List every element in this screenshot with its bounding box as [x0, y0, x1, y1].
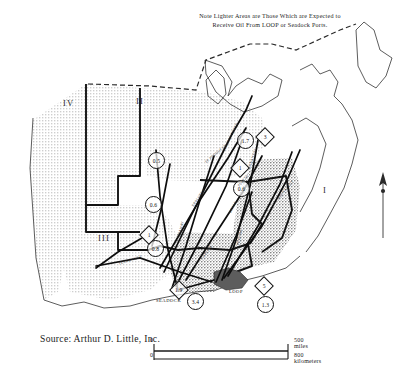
map-note-line-1: Note Lighter Areas are Those Which are E…	[170, 12, 370, 21]
map-note: Note Lighter Areas are Those Which are E…	[170, 12, 370, 30]
flow-marker-circle-11: 1.3	[257, 296, 274, 313]
flow-marker-circle-8: 3.4	[187, 293, 204, 310]
flow-marker-value: 1	[239, 165, 242, 171]
region-label-iii: III	[98, 233, 110, 243]
map-figure: Note Lighter Areas are Those Which are E…	[0, 0, 418, 380]
scale-miles-label: 500 miles	[294, 337, 308, 349]
scale-km-label: 800 kilometers	[294, 352, 321, 364]
flow-marker-value: 1.3	[262, 302, 269, 308]
northeast-outline	[356, 22, 392, 88]
canada-border-dashed	[88, 24, 356, 90]
flow-marker-value: 0.6	[150, 202, 157, 208]
flow-marker-value: 1.7	[242, 138, 249, 144]
flow-marker-value: 5	[263, 283, 266, 289]
scale-zero-top: 0	[150, 337, 153, 343]
scale-zero-bottom: 0	[150, 352, 153, 358]
port-label-loop: LOOP	[229, 289, 243, 294]
map-note-line-2: Receive Oil From LOOP or Seadock Ports.	[170, 21, 370, 30]
flow-marker-value: 0.8	[152, 246, 159, 252]
flow-marker-value: 3	[264, 134, 267, 140]
region-label-ii: II	[136, 96, 144, 106]
east-coast-outline	[300, 64, 358, 252]
map-geography-layer	[0, 0, 418, 380]
flow-marker-value: 0.5	[153, 158, 160, 164]
flow-marker-value: 1.9	[175, 287, 182, 293]
flow-marker-circle-4: 1.7	[237, 132, 254, 149]
region-label-i: I	[323, 185, 327, 195]
scale-bar-graphic	[152, 338, 290, 370]
flow-marker-circle-1: 0.6	[145, 196, 162, 213]
flow-marker-value: 1	[148, 232, 151, 238]
flow-marker-value: 3.4	[192, 299, 199, 305]
flow-marker-circle-0: 0.5	[148, 152, 165, 169]
north-arrow-icon	[379, 172, 387, 238]
region-label-iv: IV	[63, 98, 74, 108]
port-label-seadock: SEADOCK	[156, 298, 181, 303]
source-credit: Source: Arthur D. Little, Inc.	[40, 333, 160, 344]
scale-bar: 0 0 500 miles 800 kilometers	[152, 338, 290, 370]
